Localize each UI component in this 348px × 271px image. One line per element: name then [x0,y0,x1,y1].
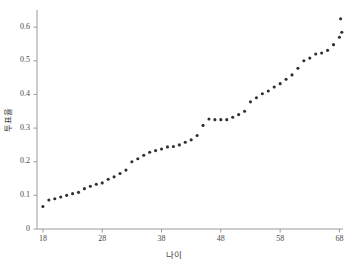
y-axis-ticks [34,27,38,229]
data-point [53,197,56,200]
data-point [47,199,50,202]
data-point [237,113,240,116]
data-point [83,187,86,190]
data-point [41,205,44,208]
data-point [267,90,270,93]
y-axis-tick-label: 0.6 [2,23,30,31]
data-point [136,157,139,160]
data-point [273,85,276,88]
x-axis-ticks [43,229,340,233]
data-point [290,73,293,76]
data-point [255,96,258,99]
data-point [95,183,98,186]
data-point [296,67,299,70]
data-point [338,36,341,39]
data-point [219,118,222,121]
data-point [113,175,116,178]
data-point [207,117,210,120]
data-point [166,145,169,148]
data-point [142,154,145,157]
data-point [107,178,110,181]
data-point [308,57,311,60]
data-point [118,172,121,175]
x-axis-tick-label: 18 [28,235,58,243]
data-point [178,143,181,146]
data-point [249,100,252,103]
x-axis-tick-label: 28 [87,235,117,243]
data-point [302,59,305,62]
data-point [89,185,92,188]
data-point [225,118,228,121]
y-axis-tick-label: 0.5 [2,56,30,64]
data-point [202,124,205,127]
axis-lines [37,10,343,229]
data-point [59,195,62,198]
data-point [65,194,68,197]
data-point [184,141,187,144]
data-point [190,138,193,141]
data-point [340,31,343,34]
scatter-chart-figure: 00.10.20.30.40.50.6182838485868 나이 투표율 [0,0,348,271]
data-point [154,149,157,152]
data-point [231,116,234,119]
data-point [326,49,329,52]
data-point [124,169,127,172]
data-point [71,192,74,195]
data-point [285,78,288,81]
x-axis-label: 나이 [0,251,348,260]
data-point [339,17,342,20]
data-point [320,51,323,54]
data-point [172,145,175,148]
data-point [243,110,246,113]
data-point [213,118,216,121]
data-point [314,53,317,56]
y-axis-label: 투표율 [4,90,13,150]
x-axis-tick-label: 48 [206,235,236,243]
y-axis-tick-label: 0 [2,225,30,233]
data-point [148,151,151,154]
data-point [196,134,199,137]
x-axis-tick-label: 68 [324,235,348,243]
data-point [77,191,80,194]
data-point-group [41,17,343,208]
x-axis-tick-label: 58 [265,235,295,243]
data-point [101,181,104,184]
plot-canvas [0,0,348,271]
data-point [332,43,335,46]
data-point [279,82,282,85]
y-axis-tick-label: 0.2 [2,157,30,165]
x-axis-tick-label: 38 [147,235,177,243]
data-point [130,160,133,163]
y-axis-tick-label: 0.1 [2,191,30,199]
data-point [261,92,264,95]
data-point [160,147,163,150]
